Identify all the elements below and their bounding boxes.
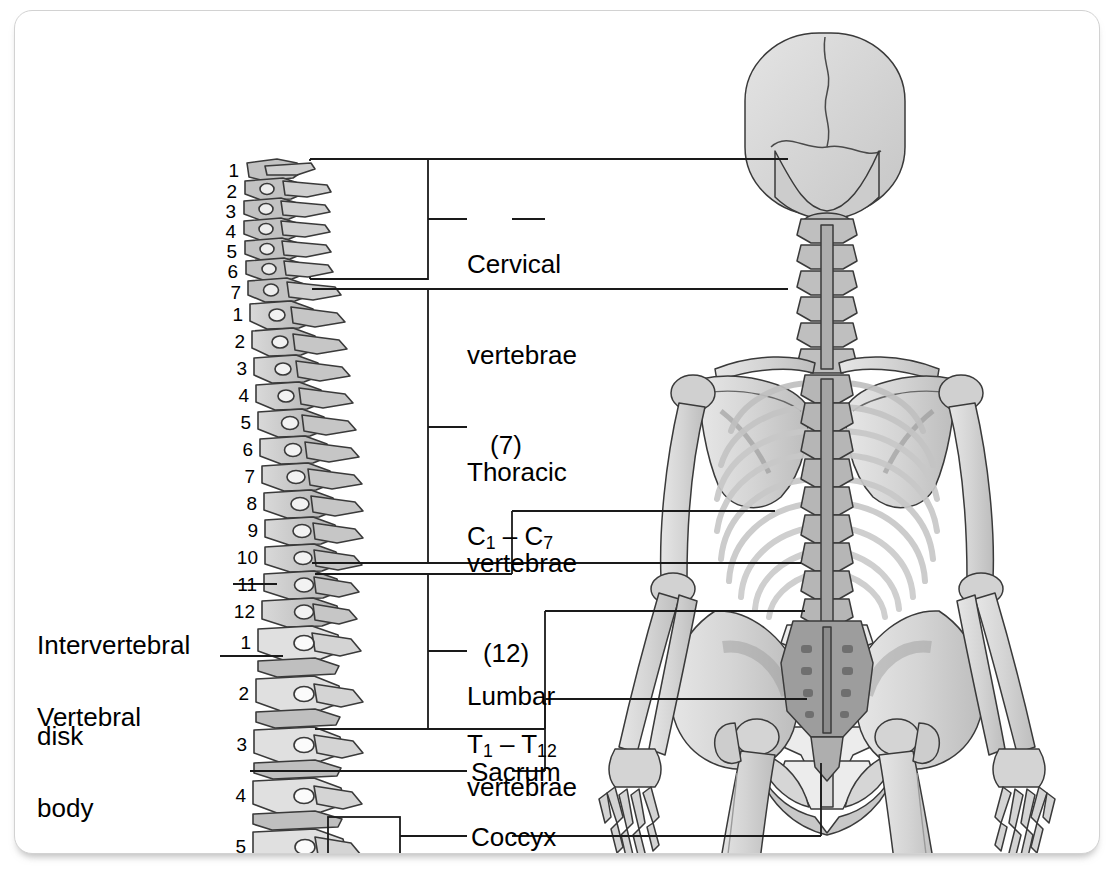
vertebra-numbers-layer: 123456712345678910111212345 bbox=[15, 11, 1099, 853]
vertebra-number-thoracic-6: 6 bbox=[242, 439, 253, 461]
vertebra-number-thoracic-1: 1 bbox=[232, 304, 243, 326]
vertebra-number-thoracic-7: 7 bbox=[244, 466, 255, 488]
vertebra-number-thoracic-11: 11 bbox=[237, 574, 257, 596]
vertebra-number-thoracic-2: 2 bbox=[234, 331, 245, 353]
vertebra-number-lumbar-1: 1 bbox=[240, 632, 251, 654]
vertebra-number-cervical-7: 7 bbox=[230, 282, 241, 304]
vertebra-number-thoracic-12: 12 bbox=[234, 601, 255, 623]
vertebra-number-lumbar-3: 3 bbox=[236, 734, 247, 756]
vertebra-number-thoracic-3: 3 bbox=[236, 358, 247, 380]
vertebra-number-lumbar-2: 2 bbox=[238, 683, 249, 705]
figure-root: Cervical vertebrae (7) C1 – C7 Thoracic … bbox=[0, 0, 1120, 878]
vertebra-number-thoracic-5: 5 bbox=[240, 412, 251, 434]
vertebra-number-lumbar-4: 4 bbox=[235, 785, 246, 807]
vertebra-number-thoracic-8: 8 bbox=[246, 493, 257, 515]
vertebra-number-cervical-3: 3 bbox=[225, 201, 236, 223]
vertebra-number-cervical-4: 4 bbox=[225, 221, 236, 243]
figure-card: Cervical vertebrae (7) C1 – C7 Thoracic … bbox=[14, 10, 1100, 854]
vertebra-number-cervical-6: 6 bbox=[227, 261, 238, 283]
vertebra-number-thoracic-4: 4 bbox=[238, 385, 249, 407]
vertebra-number-thoracic-10: 10 bbox=[237, 547, 258, 569]
vertebra-number-lumbar-5: 5 bbox=[235, 836, 246, 854]
vertebra-number-cervical-2: 2 bbox=[226, 181, 237, 203]
vertebra-number-thoracic-9: 9 bbox=[247, 520, 258, 542]
vertebra-number-cervical-1: 1 bbox=[228, 160, 239, 182]
vertebra-number-cervical-5: 5 bbox=[226, 241, 237, 263]
